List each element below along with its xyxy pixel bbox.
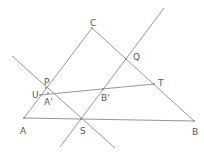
point-t bbox=[153, 83, 155, 85]
segment-UT bbox=[40, 84, 154, 95]
point-u bbox=[39, 94, 41, 96]
point-b1 bbox=[102, 88, 104, 90]
label-a1: A' bbox=[44, 97, 53, 107]
side-CB bbox=[92, 28, 194, 121]
side-AB bbox=[24, 118, 194, 121]
label-b: B bbox=[192, 127, 198, 137]
label-u: U bbox=[32, 90, 39, 100]
label-s: S bbox=[80, 126, 86, 136]
point-b bbox=[193, 120, 195, 122]
point-q bbox=[125, 58, 127, 60]
label-a: A bbox=[20, 126, 27, 136]
label-q: Q bbox=[133, 52, 140, 62]
side-AC bbox=[24, 28, 92, 118]
line-SQ bbox=[60, 8, 164, 147]
point-p bbox=[45, 87, 47, 89]
label-t: T bbox=[157, 78, 164, 88]
point-a bbox=[23, 117, 25, 119]
geometry-diagram: ABCSPUA'QTB' bbox=[0, 0, 204, 156]
point-s bbox=[80, 118, 82, 120]
label-b1: B' bbox=[101, 93, 110, 103]
point-a1 bbox=[47, 92, 49, 94]
line-PS bbox=[12, 56, 115, 148]
label-c: C bbox=[90, 18, 96, 28]
label-p: P bbox=[44, 77, 50, 87]
